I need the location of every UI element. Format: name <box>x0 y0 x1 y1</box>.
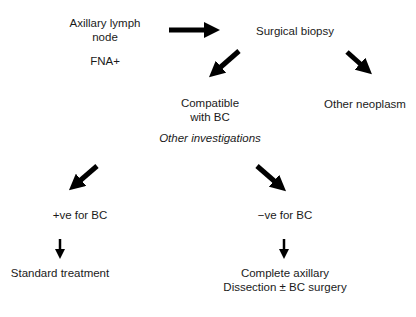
node-complete-axillary-dissection: Complete axillary Dissection ± BC surger… <box>220 266 350 294</box>
compatible-line-1: Compatible <box>170 96 250 110</box>
axillary-line-2: node <box>60 30 150 44</box>
node-fna: FNA+ <box>80 54 130 68</box>
arrow-to-compatible <box>215 51 239 72</box>
axillary-line-1: Axillary lymph <box>60 16 150 30</box>
node-other-neoplasm: Other neoplasm <box>320 97 410 111</box>
node-other-investigations: Other investigations <box>150 131 270 145</box>
complete-line-1: Complete axillary <box>220 266 350 280</box>
node-compatible-with-bc: Compatible with BC <box>170 96 250 124</box>
arrow-to-positive <box>75 166 97 185</box>
compatible-line-2: with BC <box>170 110 250 124</box>
arrow-to-other-neoplasm <box>347 52 366 69</box>
node-negative-for-bc: −ve for BC <box>255 208 315 222</box>
node-standard-treatment: Standard treatment <box>10 266 110 280</box>
node-surgical-biopsy: Surgical biopsy <box>250 24 340 38</box>
node-axillary-lymph-node: Axillary lymph node <box>60 16 150 44</box>
node-positive-for-bc: +ve for BC <box>50 208 110 222</box>
arrow-to-negative <box>257 166 280 186</box>
complete-line-2: Dissection ± BC surgery <box>220 280 350 294</box>
